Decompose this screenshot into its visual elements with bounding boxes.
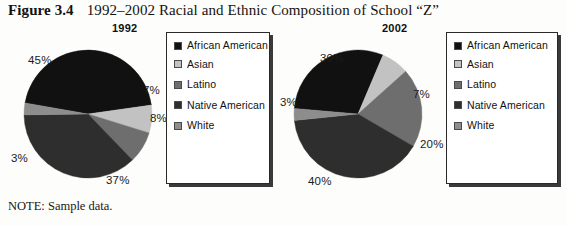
legend-label: Latino [187, 79, 216, 91]
swatch-asian [174, 60, 182, 68]
pie-chart-2002: 30% 7% 20% 40% 3% [280, 40, 450, 195]
pie-panel-2002: 30% 7% 20% 40% 3% [280, 40, 450, 195]
pct-label-1992-1: 7% [143, 84, 160, 96]
pct-label-1992-2: 8% [150, 112, 167, 124]
legend-item[interactable]: African American [454, 40, 557, 52]
figure-page: Figure 3.41992–2002 Racial and Ethnic Co… [0, 0, 566, 226]
legend-label: Native American [187, 100, 265, 112]
legend-label: Native American [467, 100, 545, 112]
pct-label-2002-1: 7% [413, 88, 430, 100]
legend-2002: African American Asian Latino Native Ame… [446, 32, 558, 184]
legend-item[interactable]: White [174, 120, 269, 132]
year-heading-2002: 2002 [382, 22, 407, 34]
swatch-white [454, 122, 462, 130]
legend-label: Latino [467, 79, 496, 91]
pct-label-2002-0: 30% [320, 52, 344, 64]
swatch-native-american [454, 101, 462, 109]
pct-label-2002-3: 40% [308, 175, 332, 187]
swatch-latino [174, 81, 182, 89]
legend-item[interactable]: White [454, 120, 557, 132]
figure-title: 1992–2002 Racial and Ethnic Composition … [87, 2, 439, 18]
swatch-african-american [174, 42, 182, 50]
pie-panel-1992: 45% 7% 8% 37% 3% [10, 40, 180, 195]
swatch-african-american [454, 42, 462, 50]
pct-label-1992-3: 37% [106, 174, 130, 186]
pie-svg-2002 [280, 40, 450, 195]
figure-note: NOTE: Sample data. [8, 199, 113, 214]
pct-label-2002-4: 3% [280, 96, 297, 108]
legend-item[interactable]: Latino [174, 79, 269, 91]
legend-item[interactable]: Asian [174, 59, 269, 71]
legend-item[interactable]: Latino [454, 79, 557, 91]
swatch-native-american [174, 101, 182, 109]
figure-number: Figure 3.4 [8, 2, 74, 18]
legend-item[interactable]: Native American [174, 100, 269, 112]
legend-item[interactable]: Native American [454, 100, 557, 112]
year-heading-1992: 1992 [112, 22, 137, 34]
legend-item[interactable]: African American [174, 40, 269, 52]
pct-label-1992-0: 45% [28, 54, 52, 66]
swatch-asian [454, 60, 462, 68]
legend-label: African American [467, 40, 548, 52]
legend-label: African American [187, 40, 268, 52]
figure-caption: Figure 3.41992–2002 Racial and Ethnic Co… [8, 2, 439, 19]
pct-label-1992-4: 3% [11, 152, 28, 164]
legend-label: White [187, 120, 214, 132]
pct-label-2002-2: 20% [420, 138, 444, 150]
swatch-latino [454, 81, 462, 89]
legend-item[interactable]: Asian [454, 59, 557, 71]
swatch-white [174, 122, 182, 130]
legend-label: Asian [467, 59, 494, 71]
legend-label: Asian [187, 59, 214, 71]
legend-label: White [467, 120, 494, 132]
pie-chart-1992: 45% 7% 8% 37% 3% [10, 40, 180, 195]
legend-1992: African American Asian Latino Native Ame… [166, 32, 270, 184]
